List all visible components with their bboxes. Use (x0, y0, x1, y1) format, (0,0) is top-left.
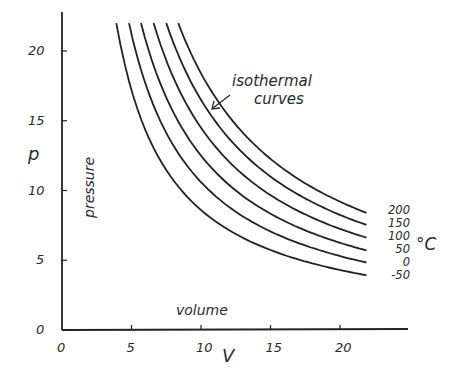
isotherm-150 (166, 23, 366, 225)
y-axis-symbol: p (27, 143, 39, 164)
annotation-line-2: curves (254, 90, 304, 108)
isotherm-label: -50 (391, 268, 410, 282)
x-axis-word: volume (176, 302, 228, 318)
y-tick-label: 20 (28, 43, 45, 58)
y-tick-label: 5 (36, 252, 44, 267)
x-tick-label: 15 (266, 340, 283, 355)
x-tick-label: 20 (335, 340, 352, 355)
y-tick-label: 10 (28, 183, 45, 198)
y-tick-label: 0 (36, 322, 44, 337)
isotherm-100 (154, 23, 367, 238)
x-tick-label: 10 (196, 340, 213, 355)
isotherm-label: 200 (388, 203, 410, 217)
isotherm-curves: 200150100500-50 (116, 23, 410, 282)
isotherm-label: 150 (388, 216, 410, 230)
y-axis-word: pressure (81, 157, 97, 219)
x-axis-symbol: V (222, 345, 236, 366)
isotherm-label: 100 (388, 229, 410, 243)
x-tick-label: 0 (57, 340, 65, 355)
isotherm--50 (116, 23, 366, 275)
x-axis-line (62, 329, 408, 330)
isotherm-0 (129, 23, 366, 262)
annotation-line-1: isothermal (232, 72, 313, 90)
isotherm-label: 0 (403, 255, 410, 269)
labels: p pressure V volume isothermal curves °C (27, 72, 437, 366)
isotherm-200 (178, 23, 366, 213)
y-tick-label: 15 (28, 113, 45, 128)
isotherm-label: 50 (395, 242, 410, 256)
isotherm-50 (141, 23, 366, 250)
x-tick-label: 5 (127, 340, 135, 355)
unit-label: °C (416, 234, 437, 254)
isotherm-chart: 0510152005101520 200150100500-50 p press… (0, 0, 452, 376)
